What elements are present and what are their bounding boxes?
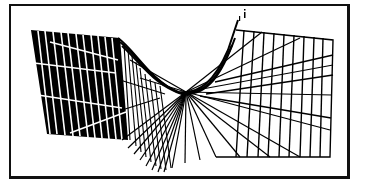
annotation-mark [239,9,246,21]
wireframe-figure [0,0,366,195]
left-dark-panel [31,30,128,140]
wireframe-surface-plot [0,0,366,195]
trough-curve [118,20,238,94]
